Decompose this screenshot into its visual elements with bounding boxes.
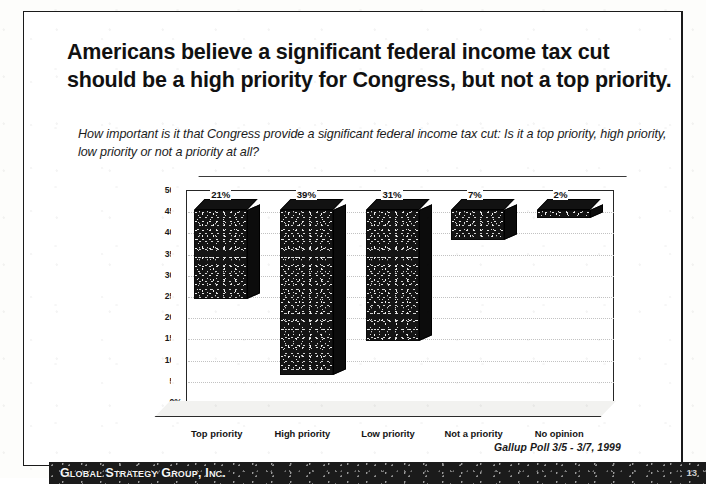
x-axis-label: High priority	[260, 428, 346, 439]
bar: 31%	[366, 210, 419, 341]
bar-chart: Percentage of respondents 50%45%40%35%30…	[102, 190, 662, 445]
x-axis-label: No opinion	[516, 428, 602, 439]
x-axis-label: Low priority	[345, 428, 431, 439]
bar-top-face	[366, 199, 430, 210]
bar-value-label: 31%	[381, 189, 402, 200]
bar-top-face	[451, 199, 515, 210]
footer-bar: Global Strategy Group, Inc. 13	[49, 462, 706, 484]
bar-top-face	[537, 199, 601, 210]
bar: 2%	[537, 210, 590, 218]
bar-side-face	[504, 204, 517, 239]
survey-question-text: How important is it that Congress provid…	[78, 125, 678, 162]
bar: 21%	[194, 210, 247, 299]
bar-value-label: 7%	[467, 189, 483, 200]
bar-value-label: 21%	[210, 189, 231, 200]
plot-area: 21%39%31%7%2%	[186, 190, 638, 422]
plot-depth-top	[186, 176, 627, 190]
bar-side-face	[247, 204, 260, 299]
bar-front-face	[280, 210, 333, 375]
bar-side-face	[419, 204, 432, 341]
bar-front-face	[366, 210, 419, 341]
source-note: Gallup Poll 3/5 - 3/7, 1999	[494, 442, 621, 453]
plot-depth-left	[171, 176, 186, 389]
plot-floor	[155, 401, 616, 417]
page-title: Americans believe a significant federal …	[67, 39, 677, 94]
footer-page-number: 13	[686, 467, 697, 478]
bar-front-face	[537, 210, 590, 218]
gridline	[188, 382, 614, 383]
bar-front-face	[194, 210, 247, 299]
bar-value-label: 39%	[296, 189, 317, 200]
bar: 39%	[280, 210, 333, 375]
bar-side-face	[333, 204, 346, 375]
bar-top-face	[280, 199, 344, 210]
footer-organization: Global Strategy Group, Inc.	[60, 466, 226, 480]
bar-front-face	[451, 210, 504, 240]
x-axis-label: Top priority	[174, 428, 260, 439]
slide-frame: Americans believe a significant federal …	[23, 11, 683, 466]
bar-value-label: 2%	[553, 189, 569, 200]
x-axis-label: Not a priority	[431, 428, 517, 439]
bar-top-face	[194, 199, 258, 210]
bar: 7%	[451, 210, 504, 240]
gridline	[188, 361, 614, 362]
